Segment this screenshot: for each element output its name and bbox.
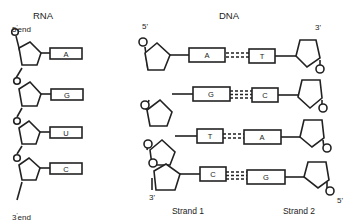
rna-base-2: G [64, 91, 70, 100]
strand1-bottom-label: 3' [149, 193, 155, 202]
hydrogen-bonds [223, 53, 252, 179]
dna-base-2-right: C [262, 91, 268, 100]
dna-base-1-right: T [260, 52, 265, 61]
dna-base-1-left: A [204, 51, 209, 60]
strand2-top-label: 3' [315, 23, 321, 32]
rna-5-end-label: 5'end [12, 24, 31, 34]
rna-base-1: A [63, 50, 68, 59]
strand2-label: Strand 2 [283, 206, 315, 216]
nucleic-acid-diagram: RNA 5'end 3'end A G U C DNA 5' 3' 3' 5' … [0, 0, 354, 224]
rna-base-3: U [63, 129, 68, 138]
dna-base-2-left: G [208, 90, 214, 99]
dna-base-4-right: G [263, 173, 269, 182]
dna-base-4-left: C [210, 170, 216, 179]
dna-strand-2 [244, 40, 334, 195]
dna-title: DNA [219, 10, 240, 21]
rna-strand [12, 29, 83, 200]
dna-strand-1 [139, 38, 230, 190]
strand1-top-label: 5' [142, 22, 148, 31]
strand1-label: Strand 1 [172, 206, 204, 216]
strand2-bottom-label: 5' [337, 196, 343, 205]
rna-3-end-label: 3'end [12, 212, 31, 222]
rna-base-4: C [63, 165, 69, 174]
dna-base-3-left: T [208, 132, 213, 141]
dna-base-3-right: A [259, 133, 264, 142]
rna-title: RNA [33, 10, 54, 21]
